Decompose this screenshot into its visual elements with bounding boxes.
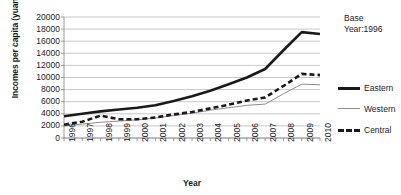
x-tick-label: 2010 bbox=[324, 102, 333, 142]
legend-label-western: Western bbox=[364, 104, 396, 115]
x-tick-label: 1998 bbox=[105, 102, 114, 142]
legend-label-eastern: Eastern bbox=[364, 83, 393, 94]
x-tick-label: 2000 bbox=[141, 102, 150, 142]
legend-swatch-central bbox=[338, 129, 360, 132]
legend-swatch-eastern bbox=[338, 87, 360, 90]
legend-swatch-western bbox=[338, 108, 360, 109]
legend-item-central: Central bbox=[338, 125, 400, 139]
x-tick-label: 2009 bbox=[306, 102, 315, 142]
x-axis-tick-labels: 1996199719981999200020012002200320042005… bbox=[0, 0, 401, 195]
x-tick-label: 1999 bbox=[123, 102, 132, 142]
line-chart: Incomes per capita (yuan) 02000400060008… bbox=[0, 0, 401, 195]
base-annotation-line2: Year:1996 bbox=[344, 24, 382, 35]
x-tick-label: 2003 bbox=[196, 102, 205, 142]
x-tick-label: 2006 bbox=[251, 102, 260, 142]
x-tick-label: 2007 bbox=[269, 102, 278, 142]
x-tick-label: 2004 bbox=[214, 102, 223, 142]
legend-label-central: Central bbox=[364, 125, 391, 136]
legend-item-western: Western bbox=[338, 104, 400, 118]
x-axis-title: Year bbox=[64, 178, 320, 188]
x-tick-label: 2005 bbox=[233, 102, 242, 142]
x-tick-label: 2002 bbox=[178, 102, 187, 142]
x-tick-label: 1997 bbox=[86, 102, 95, 142]
legend-item-eastern: Eastern bbox=[338, 83, 400, 97]
x-tick-label: 1996 bbox=[68, 102, 77, 142]
x-tick-label: 2008 bbox=[287, 102, 296, 142]
x-tick-label: 2001 bbox=[159, 102, 168, 142]
base-annotation-line1: Base bbox=[344, 13, 363, 24]
